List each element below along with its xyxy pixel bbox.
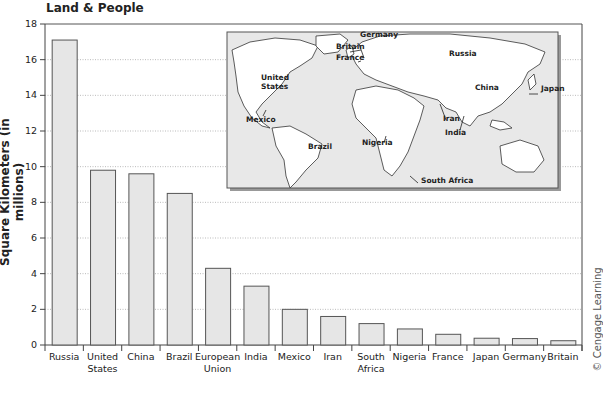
y-tick-label: 0: [17, 339, 37, 350]
map-label-india: India: [445, 129, 466, 137]
map-label-south-africa: South Africa: [421, 177, 473, 185]
y-tick-label: 8: [17, 196, 37, 207]
map-label-russia: Russia: [449, 50, 477, 58]
bar-european-union: [206, 268, 231, 345]
map-label-states: States: [261, 83, 288, 91]
y-tick-label: 10: [17, 161, 37, 172]
bar-united-states: [91, 170, 116, 345]
bar-south-africa: [359, 324, 384, 345]
bar-nigeria: [397, 329, 422, 345]
y-tick-label: 6: [17, 232, 37, 243]
x-tick-label: Britain: [537, 351, 589, 363]
map-label-britain: Britain: [336, 43, 365, 51]
y-tick-label: 4: [17, 268, 37, 279]
map-label-mexico: Mexico: [246, 116, 276, 124]
bar-china: [129, 174, 154, 345]
map-label-brazil: Brazil: [308, 143, 332, 151]
map-label-united: United: [261, 74, 289, 82]
map-label-japan: Japan: [541, 85, 565, 93]
map-label-germany: Germany: [360, 31, 398, 39]
bar-iran: [321, 316, 346, 345]
map-label-nigeria: Nigeria: [362, 139, 393, 147]
map-label-iran: Iran: [443, 115, 460, 123]
map-label-china: China: [475, 84, 499, 92]
bar-mexico: [282, 309, 307, 345]
bar-france: [436, 334, 461, 345]
y-tick-label: 14: [17, 89, 37, 100]
map-label-france: France: [336, 54, 364, 62]
bar-india: [244, 286, 269, 345]
bar-britain: [551, 341, 576, 345]
bar-russia: [52, 40, 77, 345]
y-tick-label: 18: [17, 18, 37, 29]
bar-brazil: [167, 193, 192, 345]
bar-germany: [512, 339, 537, 345]
y-tick-label: 2: [17, 303, 37, 314]
bar-japan: [474, 338, 499, 345]
y-tick-label: 12: [17, 125, 37, 136]
y-tick-label: 16: [17, 54, 37, 65]
